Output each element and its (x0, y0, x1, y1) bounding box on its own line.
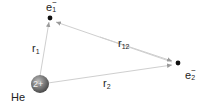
r2-label: r2 (103, 78, 111, 90)
charge-text: 2+ (33, 79, 43, 89)
electron-1-index: 1 (52, 6, 56, 13)
r12-label: r12 (118, 38, 129, 50)
r1-label: r1 (32, 43, 40, 55)
electron-1-label: e−1 (46, 2, 58, 13)
r2-subscript: 2 (107, 83, 111, 90)
electron-1-dot (48, 16, 53, 21)
element-symbol: He (11, 91, 25, 103)
r1-line (40, 22, 49, 76)
r1-subscript: 1 (36, 48, 40, 55)
nucleus-charge-label: 2+ (33, 80, 43, 89)
electron-2-label: e−2 (185, 70, 197, 81)
electron-2-dot (176, 61, 181, 66)
electron-2-index: 2 (191, 74, 195, 81)
r12-line-tail (100, 37, 172, 61)
helium-label: He (11, 92, 25, 103)
r12-subscript: 12 (122, 43, 130, 50)
